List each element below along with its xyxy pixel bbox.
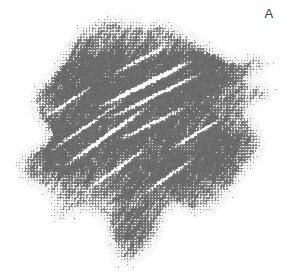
micrograph-image [0, 0, 294, 274]
figure-panel-a: A [0, 0, 294, 274]
panel-label: A [258, 4, 280, 24]
